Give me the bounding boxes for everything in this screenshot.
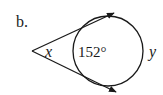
tangent-tangent-diagram: b. x 152° y <box>0 0 163 95</box>
far-arc-label: y <box>147 43 157 61</box>
part-label: b. <box>16 13 28 30</box>
vertex-angle-label: x <box>44 43 52 60</box>
near-arc-label: 152° <box>78 44 107 60</box>
